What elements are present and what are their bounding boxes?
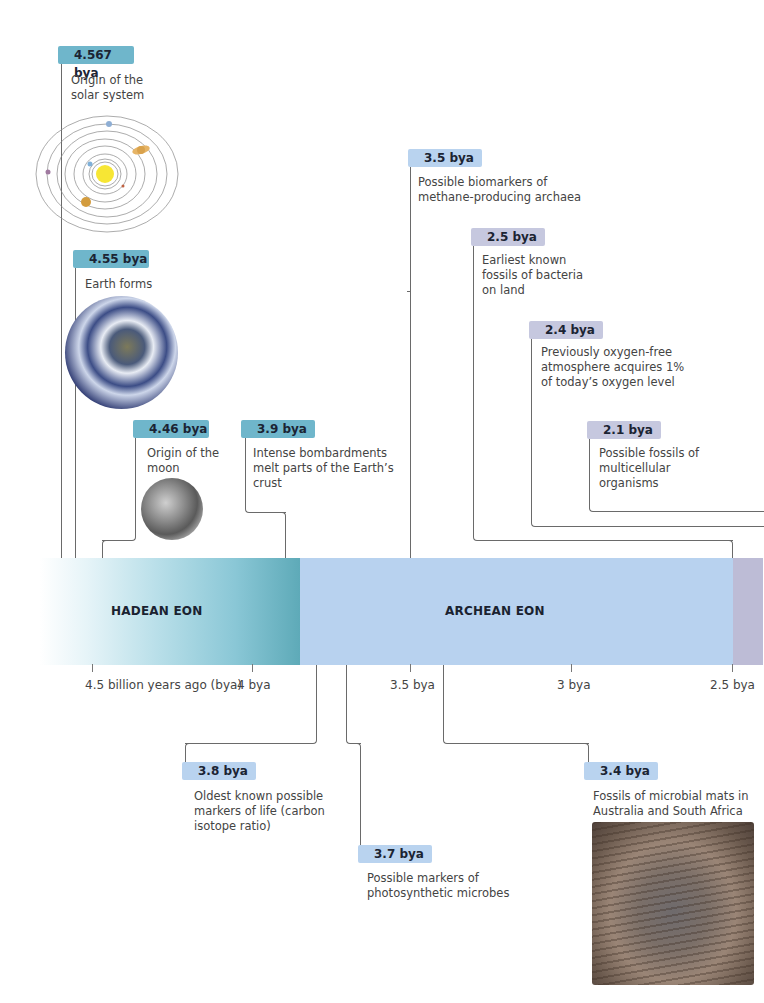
- date-badge-4567: 4.567 bya: [58, 46, 134, 64]
- event-desc-38: Oldest known possible markers of life (c…: [194, 789, 325, 834]
- event-desc-34: Fossils of microbial mats in Australia a…: [593, 789, 749, 819]
- event-desc-4567: Origin of the solar system: [71, 73, 144, 103]
- connector-446: [102, 436, 136, 541]
- event-desc-446: Origin of the moon: [147, 446, 219, 476]
- date-badge-37: 3.7 bya: [358, 845, 432, 863]
- axis-tick: [410, 664, 411, 672]
- connector-35-tick: [407, 291, 411, 292]
- connector-35: [410, 164, 411, 558]
- date-badge-446: 4.46 bya: [133, 420, 209, 438]
- solar-system-diagram: [34, 112, 180, 236]
- axis-tick: [732, 664, 733, 672]
- earth-photo: [65, 296, 178, 409]
- event-desc-24: Previously oxygen-free atmosphere acquir…: [541, 345, 684, 390]
- connector-37-b: [350, 743, 361, 847]
- connector-446-b: [102, 540, 113, 559]
- connector-25-b: [722, 540, 733, 559]
- proterozoic-eon-band: [733, 558, 763, 665]
- event-desc-455: Earth forms: [85, 277, 152, 292]
- axis-label-25: 2.5 bya: [710, 678, 755, 692]
- date-badge-25: 2.5 bya: [471, 228, 545, 246]
- connector-37: [346, 665, 361, 744]
- date-badge-35: 3.5 bya: [408, 149, 482, 167]
- date-badge-21: 2.1 bya: [587, 421, 661, 439]
- axis-tick: [92, 664, 93, 672]
- archean-eon-label: ARCHEAN EON: [445, 604, 545, 618]
- connector-39-b: [275, 512, 286, 559]
- date-badge-38: 3.8 bya: [182, 762, 256, 780]
- event-desc-25: Earliest known fossils of bacteria on la…: [482, 253, 583, 298]
- event-desc-37: Possible markers of photosynthetic micro…: [367, 871, 509, 901]
- connector-34: [443, 665, 589, 744]
- event-desc-21: Possible fossils of multicellular organi…: [599, 446, 699, 491]
- connector-38: [185, 665, 317, 744]
- microbial-mat-fossil-photo: [592, 822, 754, 985]
- connector-455: [75, 266, 76, 558]
- date-badge-39: 3.9 bya: [241, 420, 315, 438]
- event-desc-39: Intense bombardments melt parts of the E…: [253, 446, 394, 491]
- hadean-eon-label: HADEAN EON: [111, 604, 202, 618]
- axis-label-35: 3.5 bya: [390, 678, 435, 692]
- connector-34-b: [578, 743, 589, 764]
- date-badge-455: 4.55 bya: [73, 250, 149, 268]
- event-desc-35: Possible biomarkers of methane-producing…: [418, 175, 581, 205]
- date-badge-34: 3.4 bya: [584, 762, 658, 780]
- moon-photo: [141, 478, 203, 540]
- connector-38-b: [185, 743, 196, 764]
- date-badge-24: 2.4 bya: [529, 321, 603, 339]
